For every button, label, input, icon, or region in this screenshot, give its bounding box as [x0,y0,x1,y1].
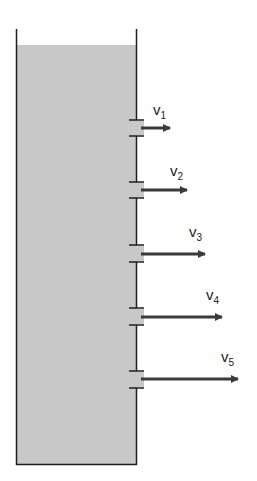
label-v2: v2 [170,162,184,182]
label-v3: v3 [189,223,203,243]
label-v5: v5 [221,348,235,368]
water-fill [17,45,137,464]
velocity-arrows [141,128,238,379]
label-v4: v4 [206,286,220,306]
tank-diagram: v1 v2 v3 v4 v5 [0,0,257,481]
label-v1: v1 [153,101,167,121]
